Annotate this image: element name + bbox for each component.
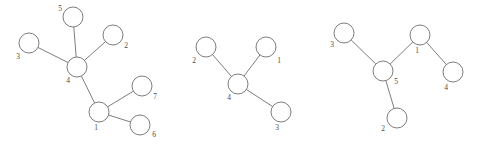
node-label: 7 <box>153 92 157 101</box>
node-label: 1 <box>415 46 419 55</box>
graph-node[interactable] <box>103 25 123 45</box>
graph-node[interactable] <box>334 23 354 43</box>
graph-node[interactable] <box>410 25 430 45</box>
node-label: 3 <box>330 40 334 49</box>
graph-node[interactable] <box>130 115 150 135</box>
node-label: 2 <box>124 41 128 50</box>
node-label: 5 <box>394 77 398 86</box>
graph-node[interactable] <box>228 74 248 94</box>
graph-node[interactable] <box>443 62 463 82</box>
graph-node[interactable] <box>196 37 216 57</box>
node-label: 1 <box>277 56 281 65</box>
graph-node[interactable] <box>256 37 276 57</box>
node-label: 3 <box>275 123 279 132</box>
graph-node[interactable] <box>89 102 109 122</box>
graph-node[interactable] <box>132 76 152 96</box>
graph-node[interactable] <box>271 102 291 122</box>
node-label: 5 <box>58 4 62 13</box>
graph-node[interactable] <box>387 108 407 128</box>
graph-node[interactable] <box>373 61 393 81</box>
graph-node[interactable] <box>19 33 39 53</box>
node-label: 6 <box>152 130 156 139</box>
graph-figure: 5234716 2143 31542 <box>0 0 484 145</box>
node-label: 1 <box>94 123 98 132</box>
node-label: 3 <box>16 52 20 61</box>
node-label: 2 <box>381 124 385 133</box>
node-label: 4 <box>444 83 448 92</box>
node-label: 4 <box>66 76 70 85</box>
graph-node[interactable] <box>67 57 87 77</box>
graph-node[interactable] <box>63 7 83 27</box>
node-label: 2 <box>192 56 196 65</box>
node-label: 4 <box>227 93 231 102</box>
